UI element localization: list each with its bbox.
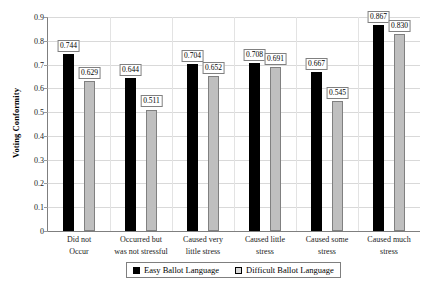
y-axis-tick-mark xyxy=(44,65,48,66)
y-axis-tick-label: 0.8 xyxy=(4,36,44,45)
category-separator xyxy=(296,17,297,231)
y-axis-tick-mark xyxy=(44,160,48,161)
y-axis-tick-mark xyxy=(44,136,48,137)
x-axis-category-label: Did notOccur xyxy=(67,234,91,257)
bar-easy-2 xyxy=(187,64,198,231)
x-axis-category-label: Occurred butwas not stressful xyxy=(114,234,167,257)
legend-swatch-icon-easy xyxy=(133,267,140,274)
bar-difficult-2 xyxy=(208,76,219,231)
y-axis-tick-label: 0.5 xyxy=(4,108,44,117)
legend-label-difficult: Difficult Ballot Language xyxy=(246,265,334,275)
bar-value-label: 0.545 xyxy=(326,87,349,99)
bar-easy-3 xyxy=(249,63,260,231)
legend-swatch-icon-difficult xyxy=(235,267,242,274)
category-separator xyxy=(234,17,235,231)
x-axis-category-labels: Did notOccurOccurred butwas not stressfu… xyxy=(48,234,420,264)
bar-chart: Voting Conformity 00.10.20.30.40.50.60.7… xyxy=(0,0,429,295)
y-axis-line xyxy=(47,17,48,231)
y-axis-tick-mark xyxy=(44,207,48,208)
legend-item-difficult-ballot-language: Difficult Ballot Language xyxy=(235,265,334,275)
y-axis-tick-mark xyxy=(44,112,48,113)
bar-value-label: 0.704 xyxy=(181,50,204,62)
x-axis-line xyxy=(48,231,420,232)
plot-area: 0.7440.6290.6440.5110.7040.6520.7080.691… xyxy=(48,17,420,231)
y-axis-tick-mark xyxy=(44,183,48,184)
y-axis-tick-label: 0.2 xyxy=(4,179,44,188)
bar-value-label: 0.511 xyxy=(140,95,163,107)
bar-value-label: 0.652 xyxy=(202,62,225,74)
bar-difficult-3 xyxy=(270,67,281,231)
bar-value-label: 0.644 xyxy=(119,64,142,76)
y-axis-tick-label: 0.4 xyxy=(4,131,44,140)
y-axis-tick-labels: 00.10.20.30.40.50.60.70.80.9 xyxy=(0,17,44,231)
category-separator xyxy=(172,17,173,231)
x-axis-category-label: Caused somestress xyxy=(306,234,348,257)
y-axis-tick-label: 0 xyxy=(4,227,44,236)
bar-value-label: 0.629 xyxy=(78,67,101,79)
y-axis-tick-mark xyxy=(44,231,48,232)
bar-easy-1 xyxy=(125,78,136,231)
y-axis-tick-mark xyxy=(44,41,48,42)
bar-difficult-1 xyxy=(146,110,157,232)
y-axis-tick-label: 0.9 xyxy=(4,13,44,22)
y-axis-tick-label: 0.3 xyxy=(4,155,44,164)
bar-easy-4 xyxy=(311,72,322,231)
y-axis-tick-mark xyxy=(44,88,48,89)
bar-value-label: 0.691 xyxy=(264,53,287,65)
x-axis-category-label: Caused verylittle stress xyxy=(183,234,223,257)
y-axis-tick-label: 0.1 xyxy=(4,203,44,212)
bar-value-label: 0.830 xyxy=(388,20,411,32)
bar-difficult-4 xyxy=(332,101,343,231)
legend-item-easy-ballot-language: Easy Ballot Language xyxy=(133,265,219,275)
x-axis-category-label: Caused muchstress xyxy=(367,234,410,257)
y-axis-tick-mark xyxy=(44,17,48,18)
category-separator xyxy=(110,17,111,231)
bar-value-label: 0.744 xyxy=(57,40,80,52)
bar-difficult-0 xyxy=(84,81,95,231)
x-axis-category-label: Caused littlestress xyxy=(245,234,285,257)
chart-legend: Easy Ballot Language Difficult Ballot La… xyxy=(126,262,341,278)
category-separator xyxy=(358,17,359,231)
bar-easy-5 xyxy=(373,25,384,231)
bar-difficult-5 xyxy=(394,34,405,231)
y-axis-tick-label: 0.7 xyxy=(4,60,44,69)
bar-value-label: 0.867 xyxy=(367,11,390,23)
y-axis-tick-label: 0.6 xyxy=(4,84,44,93)
bar-value-label: 0.667 xyxy=(305,58,328,70)
bar-value-label: 0.708 xyxy=(243,49,266,61)
bar-easy-0 xyxy=(63,54,74,231)
legend-label-easy: Easy Ballot Language xyxy=(144,265,219,275)
